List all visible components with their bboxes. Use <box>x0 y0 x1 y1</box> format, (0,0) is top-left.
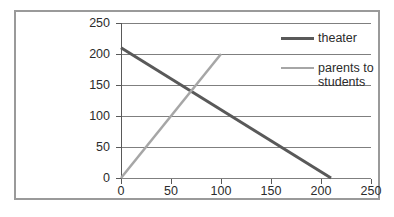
y-tick-250 <box>116 23 121 24</box>
gridline-50 <box>121 147 371 148</box>
legend-swatch-theater <box>281 37 314 40</box>
legend-label-parents-to-students: parents to students <box>318 61 382 89</box>
y-axis-line <box>121 23 122 179</box>
y-axis-label-100: 100 <box>66 110 110 123</box>
y-tick-200 <box>116 54 121 55</box>
legend-label-theater: theater <box>318 31 357 45</box>
y-tick-100 <box>116 116 121 117</box>
y-axis-label-200: 200 <box>66 48 110 61</box>
x-axis-label-150: 150 <box>251 185 291 198</box>
plot-area <box>121 23 371 178</box>
x-axis-label-0: 0 <box>101 185 141 198</box>
x-axis-label-50: 50 <box>151 185 191 198</box>
y-axis-label-250: 250 <box>66 17 110 30</box>
y-axis-label-50: 50 <box>66 141 110 154</box>
gridline-200 <box>121 54 371 55</box>
x-axis-label-250: 250 <box>351 185 391 198</box>
legend-swatch-parents-to-students <box>281 67 314 69</box>
gridline-100 <box>121 116 371 117</box>
x-axis-label-100: 100 <box>201 185 241 198</box>
chart-figure: 250 200 150 100 50 0 0 50 100 150 200 25… <box>0 0 394 217</box>
gridline-250 <box>121 23 371 24</box>
x-axis-label-200: 200 <box>301 185 341 198</box>
gridline-0 <box>121 178 371 179</box>
y-axis-label-150: 150 <box>66 79 110 92</box>
y-tick-50 <box>116 147 121 148</box>
y-tick-150 <box>116 85 121 86</box>
y-axis-label-0: 0 <box>66 172 110 185</box>
